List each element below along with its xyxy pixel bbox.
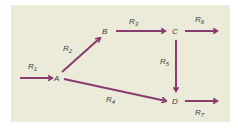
node-d: D	[172, 97, 178, 106]
label-r3: R3	[129, 17, 139, 27]
label-r7: R7	[195, 108, 205, 118]
node-a: A	[53, 74, 59, 83]
label-r1: R1	[28, 62, 37, 72]
label-r4: R4	[106, 95, 116, 105]
label-r2: R2	[63, 44, 73, 54]
edge-r4-arrow	[64, 79, 166, 101]
reaction-network-diagram: A B C D R1 R2 R3 R4 R5 R6 R7	[0, 0, 238, 131]
node-c: C	[172, 27, 178, 36]
node-b: B	[102, 27, 108, 36]
label-r5: R5	[160, 57, 170, 67]
label-r6: R6	[195, 15, 205, 25]
